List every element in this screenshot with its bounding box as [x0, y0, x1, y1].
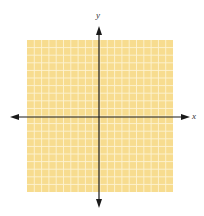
x-axis-right-arrow-icon	[181, 114, 190, 120]
y-axis-label: y	[96, 10, 100, 20]
coordinate-plane	[0, 0, 204, 216]
y-axis-up-arrow-icon	[96, 26, 102, 35]
y-axis-down-arrow-icon	[96, 199, 102, 208]
grid	[27, 40, 173, 192]
x-axis-left-arrow-icon	[10, 114, 19, 120]
x-axis-label: x	[192, 111, 196, 121]
